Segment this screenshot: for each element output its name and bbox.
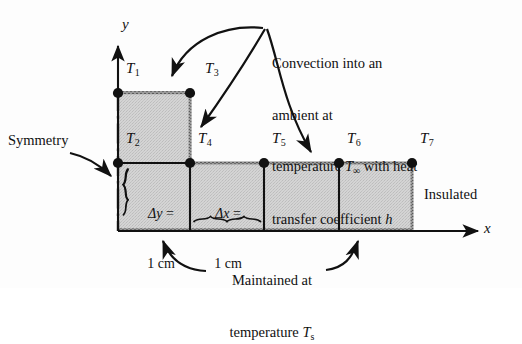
convection-line-3-post: with heat <box>360 158 417 174</box>
node-sub-T2: 2 <box>134 137 139 148</box>
convection-line-4: transfer coefficient h <box>272 211 417 228</box>
node-sub-T7: 7 <box>428 137 433 148</box>
node-dot-T4 <box>185 158 195 168</box>
x-axis-label: x <box>484 220 491 238</box>
node-sub-T3: 3 <box>213 67 218 78</box>
edge-convective-top-upper <box>118 91 190 94</box>
node-label-T4: T4 <box>198 130 212 149</box>
delta-x-symbol: Δx <box>215 206 229 221</box>
node-dot-T2 <box>113 158 123 168</box>
edge-convective-right-upper <box>189 93 192 163</box>
node-label-T2: T2 <box>126 130 140 149</box>
node-label-T3: T3 <box>205 60 219 79</box>
node-sub-T1: 1 <box>134 67 139 78</box>
delta-x-equals: = <box>230 206 241 221</box>
symmetry-label: Symmetry <box>8 132 68 149</box>
insulated-label: Insulated <box>424 186 477 203</box>
convection-line-1: Convection into an <box>272 55 417 72</box>
y-axis-label: y <box>122 16 129 34</box>
delta-y-line-1: Δy = <box>132 206 190 223</box>
maintained-line-2-pre: temperature <box>230 324 303 340</box>
h-symbol: h <box>385 211 392 227</box>
symmetry-leader-arrow <box>70 153 111 176</box>
node-sub-T4: 4 <box>206 137 211 148</box>
maintained-annotation: Maintained at temperature Ts <box>213 238 331 344</box>
node-dot-T1 <box>113 88 123 98</box>
node-dot-T5 <box>259 158 269 168</box>
convection-annotation: Convection into an ambient at temperatur… <box>272 21 417 262</box>
node-label-T7: T7 <box>420 130 434 149</box>
T-infinity-symbol: T <box>345 158 353 174</box>
node-dot-T3 <box>185 88 195 98</box>
node-label-T1: T1 <box>126 60 140 79</box>
maintained-line-2: temperature Ts <box>213 324 331 343</box>
delta-y-symbol: Δy <box>148 206 162 221</box>
convection-line-4-pre: transfer coefficient <box>272 211 385 227</box>
Ts-subscript: s <box>311 330 315 341</box>
delta-y-dimension: Δy = 1 cm <box>132 173 190 305</box>
Ts-symbol: T <box>302 324 310 340</box>
maintained-line-1: Maintained at <box>213 272 331 289</box>
convection-line-3-pre: temperature <box>272 158 345 174</box>
delta-x-line-1: Δx = <box>199 206 257 223</box>
cell-upper-left <box>118 93 190 163</box>
delta-y-equals: = <box>163 206 174 221</box>
convection-line-3: temperature T∞ with heat <box>272 158 417 177</box>
delta-y-value: 1 cm <box>132 256 190 273</box>
convection-line-2: ambient at <box>272 107 417 124</box>
